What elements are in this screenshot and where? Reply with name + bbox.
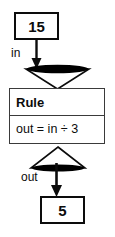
input-value-box: 15 [14, 12, 59, 40]
rule-machine-box: Rule out = in ÷ 3 [9, 88, 105, 144]
rule-header: Rule [10, 89, 104, 116]
input-value-text: 15 [28, 19, 45, 34]
output-value-text: 5 [58, 203, 66, 218]
rule-title-text: Rule [16, 96, 44, 109]
arrow-down-icon [48, 163, 66, 199]
output-value-box: 5 [40, 196, 85, 224]
output-port-label: out [21, 171, 38, 183]
rule-expression-text: out = in ÷ 3 [16, 123, 78, 136]
function-machine-diagram: 15 in Rule out = in ÷ 3 out 5 [0, 0, 115, 237]
input-port-label: in [11, 47, 20, 59]
funnel-down-icon [24, 64, 91, 90]
rule-body: out = in ÷ 3 [10, 116, 104, 143]
